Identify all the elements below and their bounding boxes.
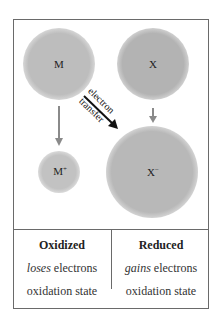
reduced-electrons-text: gains electrons — [112, 261, 210, 275]
reduced-state-text: oxidation state — [112, 284, 210, 298]
redox-illustration — [0, 0, 223, 229]
oxidized-state-text: oxidation state — [13, 284, 111, 298]
oxidized-electrons-text: loses electrons — [13, 261, 111, 275]
arrow-x-to-x-minus — [149, 108, 157, 123]
label-x-minus: X− — [147, 166, 159, 178]
reduced-heading: Reduced — [112, 238, 210, 252]
label-m-plus: M+ — [53, 165, 67, 177]
oxidized-heading: Oxidized — [13, 238, 111, 252]
label-x: X — [149, 58, 157, 70]
label-m: M — [54, 58, 64, 70]
oxidized-column: Oxidized loses electrons oxidation state — [13, 230, 111, 298]
reduced-column: Reduced gains electrons oxidation state — [112, 230, 210, 298]
arrow-m-to-m-plus — [55, 106, 63, 146]
